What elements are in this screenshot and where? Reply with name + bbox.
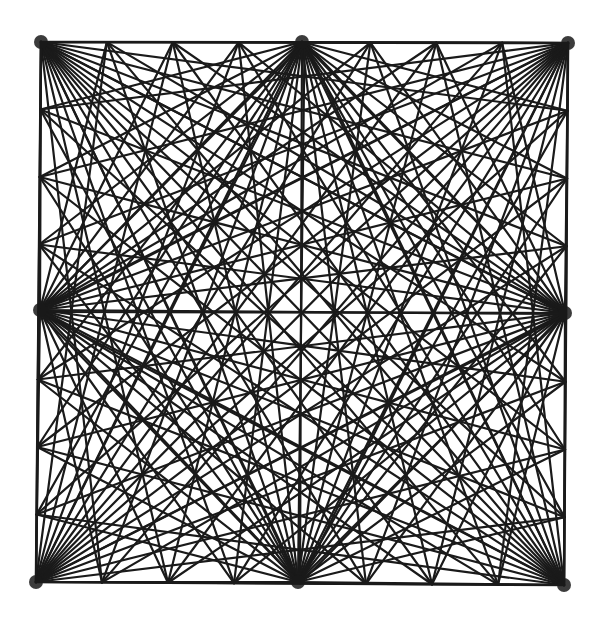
hub-bottom-mid — [291, 575, 305, 589]
hub-left-mid — [33, 303, 47, 317]
hub-right-mid — [558, 306, 572, 320]
hub-bottom-left — [29, 575, 43, 589]
hub-top-mid — [295, 35, 309, 49]
hub-top-left — [34, 35, 48, 49]
string-art-diagram — [0, 0, 603, 623]
hub-bottom-right — [557, 578, 571, 592]
hub-top-right — [561, 36, 575, 50]
